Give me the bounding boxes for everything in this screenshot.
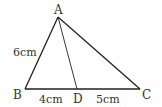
triangle-diagram: A B C D 6cm 4cm 5cm bbox=[0, 0, 162, 107]
length-label-bd: 4cm bbox=[39, 93, 63, 106]
vertex-label-c: C bbox=[142, 88, 151, 102]
vertex-label-d: D bbox=[73, 92, 83, 106]
segment-ad bbox=[58, 17, 77, 89]
length-label-dc: 5cm bbox=[96, 93, 120, 106]
segment-ac bbox=[58, 17, 140, 89]
length-label-ab: 6cm bbox=[13, 46, 37, 59]
vertex-label-a: A bbox=[53, 3, 63, 17]
vertex-label-b: B bbox=[13, 88, 22, 102]
